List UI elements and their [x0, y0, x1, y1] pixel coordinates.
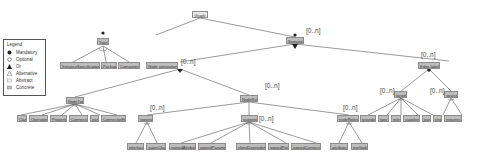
open-circle-icon: [7, 57, 12, 62]
abstract-box-icon: [7, 78, 12, 83]
multiplicity-ingoing: [0..n]: [150, 104, 164, 111]
node-ingoing[interactable]: ingoing: [138, 115, 153, 122]
filled-circle-icon: [7, 50, 12, 55]
legend-item-alternative: Alternative: [7, 70, 37, 76]
leaf-requires[interactable]: requires: [444, 115, 462, 122]
legend-item-optional: Optional: [7, 56, 33, 62]
legend-label: Concrete: [16, 85, 34, 90]
legend-label: Abstract: [16, 78, 33, 83]
leaf-connector[interactable]: Connector: [69, 115, 88, 122]
leaf-client-dependency[interactable]: clientDependency: [236, 143, 266, 150]
node-type[interactable]: Type: [97, 38, 109, 45]
node-outgoing[interactable]: outgoing: [241, 115, 258, 122]
node-node-role[interactable]: NodeRole: [240, 95, 258, 102]
multiplicity-node-role: [0..n]: [265, 82, 279, 89]
legend-label: Or: [16, 64, 21, 69]
node-node-type[interactable]: NodeType: [66, 97, 84, 104]
multiplicity-target: [0..n]: [380, 87, 394, 94]
multiplicity-outgoing: [0..n]: [259, 115, 273, 122]
node-graph[interactable]: Graph: [192, 11, 208, 18]
leaf-interface[interactable]: interface: [127, 143, 144, 150]
feature-model-diagram: [0, 0, 483, 163]
legend-label: Mandatory: [16, 50, 37, 55]
multiplicity-source: [0..n]: [430, 87, 444, 94]
node-instance-specification[interactable]: InstanceSpecification: [60, 62, 100, 69]
multiplicity-node-roles: [0..n]: [343, 104, 357, 111]
leaf-owned-attribute[interactable]: ownedAttribute: [169, 143, 196, 150]
legend-label: Optional: [16, 57, 33, 62]
legend-item-abstract: Abstract: [7, 77, 33, 83]
leaf-owned-connector[interactable]: ownedConnector: [291, 143, 321, 150]
leaf-type[interactable]: type: [378, 115, 389, 122]
leaf-operation[interactable]: Operation: [29, 115, 48, 122]
multiplicity-edge-label: [0..n]: [421, 51, 435, 58]
multiplicity-node-annotation: [0..n]: [181, 58, 195, 65]
leaf-part[interactable]: part: [422, 115, 431, 122]
leaf-end[interactable]: end: [433, 115, 442, 122]
node-component[interactable]: Component: [118, 62, 140, 69]
node-node-roles[interactable]: nodeRoles: [337, 115, 359, 122]
multiplicity-semantic: [0..n]: [306, 27, 320, 34]
leaf-attributes[interactable]: attributes: [330, 143, 348, 150]
leaf-owned-port[interactable]: ownedPort: [268, 143, 289, 150]
legend-item-or: Or: [7, 63, 21, 69]
node-source[interactable]: source: [444, 91, 458, 98]
leaf-provides[interactable]: provides: [360, 115, 376, 122]
concrete-box-icon: [7, 85, 12, 90]
leaf-connector-end[interactable]: ConnectorEnd: [101, 115, 126, 122]
filled-arc-icon: [7, 64, 12, 69]
node-semantic[interactable]: Semantic: [286, 37, 304, 44]
leaf-property[interactable]: Property: [50, 115, 67, 122]
leaf-class[interactable]: Class: [17, 115, 27, 122]
node-target[interactable]: target: [394, 91, 407, 98]
leaf-role[interactable]: role: [391, 115, 401, 122]
legend-item-concrete: Concrete: [7, 84, 34, 90]
legend: Legend: Mandatory Optional Or Alternativ…: [3, 39, 46, 96]
node-edge-label[interactable]: Edge label: [418, 62, 440, 69]
leaf-methods[interactable]: methods: [351, 143, 368, 150]
leaf-port[interactable]: port: [90, 115, 99, 122]
legend-label: Alternative: [16, 71, 37, 76]
legend-item-mandatory: Mandatory: [7, 49, 37, 55]
leaf-supplier[interactable]: supplier: [403, 115, 420, 122]
leaf-superclass[interactable]: superClass: [146, 143, 166, 150]
node-package[interactable]: Package: [101, 62, 117, 69]
node-node-annotation[interactable]: Node annotation: [146, 62, 178, 69]
legend-title: Legend:: [7, 42, 23, 47]
leaf-owned-parameter[interactable]: ownedParameter: [198, 143, 226, 150]
open-arc-icon: [7, 71, 12, 76]
